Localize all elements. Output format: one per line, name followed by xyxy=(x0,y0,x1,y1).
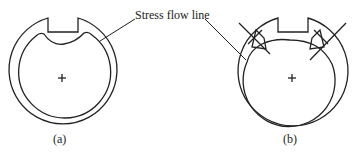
leader-line-b xyxy=(205,19,246,60)
stress-flow-line-a xyxy=(19,32,111,118)
caption-a: (a) xyxy=(53,132,66,147)
caption-b: (b) xyxy=(283,132,297,147)
figure-a xyxy=(9,18,117,124)
outer-ring-a xyxy=(9,18,117,124)
stress-flow-line-b xyxy=(243,40,335,127)
leader-line-a xyxy=(100,19,135,41)
figure-b xyxy=(238,18,348,127)
stress-flow-line-label: Stress flow line xyxy=(135,8,210,23)
